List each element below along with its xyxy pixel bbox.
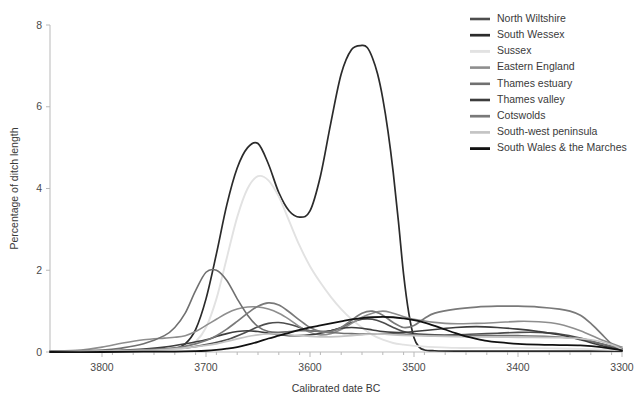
legend-label: South Wales & the Marches — [497, 141, 627, 153]
y-tick-label: 6 — [36, 100, 42, 112]
x-tick-label: 3300 — [610, 361, 634, 373]
x-tick-label: 3800 — [90, 361, 114, 373]
y-tick-label: 2 — [36, 264, 42, 276]
y-tick-label: 8 — [36, 19, 42, 31]
legend-label: Thames estuary — [497, 77, 573, 89]
chart-container: 02468380037003600350034003300Calibrated … — [0, 0, 638, 405]
x-tick-label: 3600 — [298, 361, 322, 373]
chart-legend: North WiltshireSouth WessexSussexEastern… — [470, 12, 627, 154]
series-line — [50, 269, 622, 351]
legend-label: Eastern England — [497, 60, 575, 72]
series-group — [50, 45, 622, 352]
x-tick-label: 3700 — [194, 361, 218, 373]
line-chart: 02468380037003600350034003300Calibrated … — [0, 0, 638, 405]
legend-label: Thames valley — [497, 93, 565, 105]
x-tick-label: 3500 — [402, 361, 426, 373]
x-axis-title: Calibrated date BC — [292, 382, 381, 394]
y-tick-label: 4 — [36, 182, 42, 194]
legend-label: Sussex — [497, 44, 532, 56]
legend-label: South-west peninsula — [497, 125, 598, 137]
y-axis-title: Percentage of ditch length — [8, 127, 20, 249]
series-line — [50, 45, 622, 351]
legend-label: South Wessex — [497, 28, 565, 40]
legend-label: Cotswolds — [497, 109, 545, 121]
x-tick-label: 3400 — [506, 361, 530, 373]
y-tick-label: 0 — [36, 346, 42, 358]
legend-label: North Wiltshire — [497, 12, 566, 24]
series-line — [50, 176, 622, 352]
